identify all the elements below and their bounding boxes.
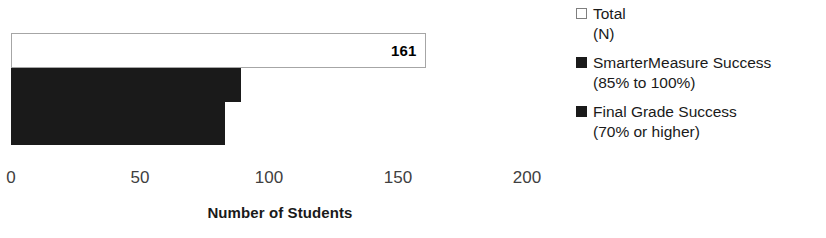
x-tick-150: 150 [384,168,412,188]
bar-total-n [11,33,426,68]
plot-area: 161 0 50 100 150 200 Number of Students [0,0,560,238]
bar-smartermeasure-success [11,68,241,102]
legend-label-total-line2: (N) [593,24,826,44]
legend-label-smartermeasure-line1: SmarterMeasure Success [593,53,771,73]
x-tick-50: 50 [131,168,150,188]
legend-marker-hollow-square-icon [576,8,587,19]
bar-value-label-total: 161 [391,42,417,59]
chart-legend: Total (N) SmarterMeasure Success (85% to… [576,4,826,151]
legend-label-total-line1: Total [593,4,626,24]
legend-entry-final-grade-success: Final Grade Success (70% or higher) [576,102,826,142]
legend-label-final-grade-line2: (70% or higher) [593,122,826,142]
legend-label-final-grade-line1: Final Grade Success [593,102,737,122]
legend-entry-total: Total (N) [576,4,826,44]
x-tick-100: 100 [255,168,283,188]
bar-final-grade-success [11,102,225,145]
legend-marker-solid-square-icon [576,106,587,117]
legend-entry-smartermeasure-success: SmarterMeasure Success (85% to 100%) [576,53,826,93]
legend-label-smartermeasure-line2: (85% to 100%) [593,73,826,93]
x-tick-0: 0 [6,168,15,188]
legend-marker-solid-square-icon [576,57,587,68]
bar-chart: 161 0 50 100 150 200 Number of Students … [0,0,826,238]
x-tick-200: 200 [513,168,541,188]
x-axis-title: Number of Students [0,204,560,221]
x-axis-tick-labels: 0 50 100 150 200 [0,168,560,194]
